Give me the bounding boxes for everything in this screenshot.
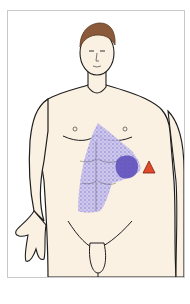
illustration-frame: Referred pain map - anterior male figure: [7, 10, 185, 278]
focal-pain-region: [116, 155, 139, 178]
body-figure: [8, 11, 184, 277]
